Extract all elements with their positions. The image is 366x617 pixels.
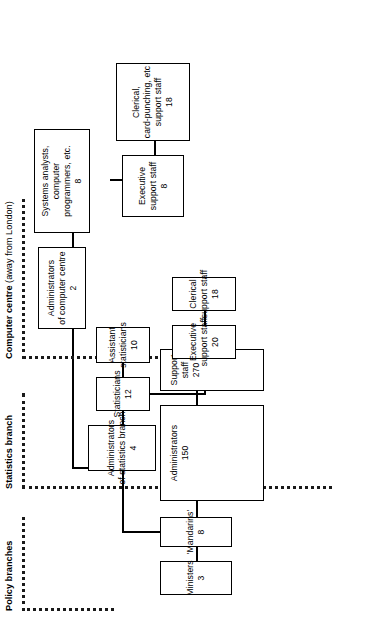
- edge-mandarins-administrators: [196, 501, 198, 517]
- node-exec-stats-line-0: Executive: [188, 323, 199, 361]
- separator-policy-left: [22, 608, 114, 611]
- node-admin-cc-line-1: of computer centre: [57, 251, 68, 324]
- node-systems-line-0: Systems analysts,: [40, 146, 51, 217]
- node-clerical-stats-line-0: Clerical: [188, 279, 199, 308]
- node-administrators-line-0: Administrators: [169, 425, 180, 481]
- node-exec-stats[interactable]: Executive support staff 20: [172, 325, 236, 359]
- node-admin-cc-line-0: Administrators: [46, 260, 57, 316]
- node-admin-stats-count: 4: [128, 446, 139, 451]
- node-mandarins[interactable]: 'Mandarins' 8: [160, 517, 232, 547]
- node-admin-cc-count: 2: [68, 286, 79, 291]
- org-chart: Policy branches Statistics branch Comput…: [0, 0, 366, 617]
- node-asst-stats[interactable]: Assistant statisticians 10: [96, 327, 150, 363]
- section-label-computer: Computer centre (away from London): [4, 201, 14, 359]
- node-ministers[interactable]: Ministers 3: [160, 561, 232, 595]
- node-exec-cc[interactable]: Executive support staff 8: [122, 155, 184, 217]
- section-label-policy: Policy branches: [4, 541, 14, 611]
- node-asst-stats-line-0: Assistant: [107, 327, 118, 363]
- node-clerical-stats[interactable]: Clerical support staff 18: [172, 277, 236, 311]
- node-clerical-cc-count: 18: [164, 97, 175, 107]
- node-ministers-count: 3: [196, 576, 207, 581]
- node-administrators-count: 150: [180, 446, 191, 461]
- node-clerical-stats-line-1: support staff: [199, 270, 210, 318]
- node-mandarins-line-0: 'Mandarins': [185, 510, 196, 555]
- node-admin-stats-line-1: of statistics branch: [117, 411, 128, 484]
- node-systems-line-2: programmers, etc.: [62, 145, 73, 216]
- node-exec-cc-count: 8: [159, 184, 170, 189]
- edge-admincc-systems: [72, 233, 74, 247]
- node-clerical-cc[interactable]: Clerical, card-punching, etc support sta…: [116, 63, 190, 141]
- node-mandarins-count: 8: [196, 530, 207, 535]
- node-systems-line-1: computer: [51, 163, 62, 200]
- node-support-staff-line-0: Support: [169, 355, 180, 386]
- section-label-computer-sub: (away from London): [4, 201, 14, 285]
- section-label-stats: Statistics branch: [4, 415, 14, 489]
- node-exec-stats-count: 20: [210, 337, 221, 347]
- node-statisticians[interactable]: Statisticians 12: [96, 377, 150, 411]
- node-clerical-cc-line-1: card-punching, etc: [142, 66, 153, 139]
- node-asst-stats-line-1: statisticians: [118, 322, 129, 368]
- separator-stats-top: [22, 393, 25, 489]
- separator-computer-top: [22, 199, 25, 359]
- edge-exec8-clericalcc: [154, 141, 156, 155]
- node-support-staff-line-1: staff: [180, 362, 191, 379]
- node-systems-count: 8: [73, 179, 84, 184]
- rotated-chart-wrapper: Policy branches Statistics branch Comput…: [0, 0, 366, 617]
- separator-policy-top: [22, 517, 25, 611]
- node-statisticians-line-0: Statisticians: [112, 370, 123, 417]
- node-clerical-stats-count: 18: [210, 289, 221, 299]
- node-exec-stats-line-1: support staff: [199, 318, 210, 366]
- node-clerical-cc-line-2: support staff: [153, 78, 164, 126]
- edge-ministers-mandarins: [196, 547, 198, 561]
- node-asst-stats-count: 10: [129, 340, 140, 350]
- node-admin-stats[interactable]: Administrators of statistics branch 4: [88, 425, 156, 471]
- node-exec-cc-line-0: Executive: [137, 167, 148, 205]
- node-exec-cc-line-1: support staff: [148, 162, 159, 210]
- section-label-computer-text: Computer centre: [4, 285, 14, 359]
- section-label-stats-text: Statistics branch: [4, 415, 14, 489]
- node-administrators[interactable]: Administrators 150: [160, 405, 264, 501]
- node-systems[interactable]: Systems analysts, computer programmers, …: [34, 129, 90, 233]
- edge-statisticians-riser: [150, 393, 204, 395]
- node-statisticians-count: 12: [123, 389, 134, 399]
- node-clerical-cc-line-0: Clerical,: [131, 86, 142, 118]
- edge-adminstats-to-admincc: [72, 329, 74, 469]
- node-admin-cc[interactable]: Administrators of computer centre 2: [38, 247, 86, 329]
- node-admin-stats-line-0: Administrators: [106, 420, 117, 476]
- node-ministers-line-0: Ministers: [185, 560, 196, 595]
- section-label-policy-text: Policy branches: [4, 541, 14, 611]
